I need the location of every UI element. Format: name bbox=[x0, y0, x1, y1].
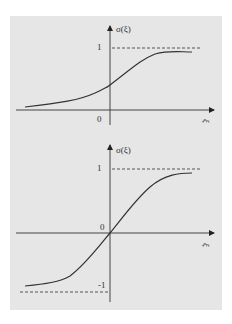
logistic-curve bbox=[25, 52, 192, 108]
top-origin-label: 0 bbox=[97, 114, 102, 124]
top-x-label: ξ bbox=[201, 119, 211, 123]
top-plot bbox=[16, 26, 214, 125]
tanh-curve bbox=[25, 173, 192, 286]
bottom-x-label: ξ bbox=[201, 243, 211, 247]
bottom-tick-neg1: -1 bbox=[98, 280, 106, 290]
bottom-tick-1: 1 bbox=[97, 163, 102, 173]
bottom-y-label: σ(ξ) bbox=[116, 145, 131, 155]
top-y-label: σ(ξ) bbox=[116, 24, 131, 34]
bottom-origin-label: 0 bbox=[100, 222, 105, 232]
bottom-plot bbox=[16, 145, 214, 302]
sigmoid-plots bbox=[0, 0, 232, 324]
top-tick-1: 1 bbox=[97, 42, 102, 52]
